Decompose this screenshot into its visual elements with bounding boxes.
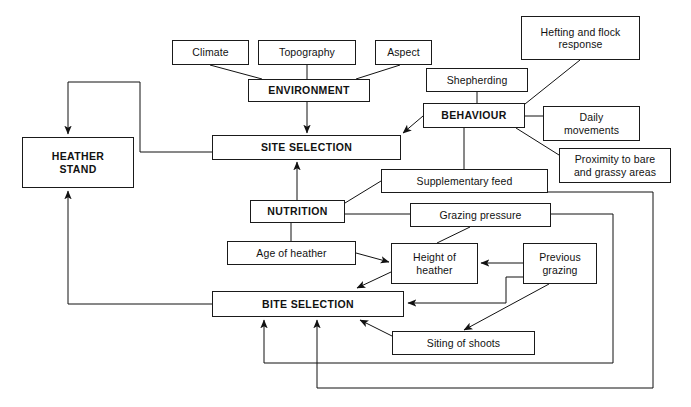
node-age-heather-label: Age of heather [253, 247, 329, 259]
node-age-heather[interactable]: Age of heather [227, 241, 356, 265]
node-topography[interactable]: Topography [258, 40, 356, 65]
node-behaviour-label: BEHAVIOUR [438, 109, 509, 121]
node-shepherding-label: Shepherding [444, 74, 511, 86]
edge-climate-to-environment [210, 65, 262, 79]
edge-hefting-to-behaviour [525, 60, 580, 104]
edge-behaviour-to-site [403, 116, 423, 133]
node-daily[interactable]: Daily movements [543, 106, 640, 141]
edge-siting-to-bite [360, 320, 392, 336]
node-bite[interactable]: BITE SELECTION [212, 291, 404, 317]
node-prev-grazing-label: Previous grazing [536, 251, 584, 276]
node-site[interactable]: SITE SELECTION [212, 135, 401, 160]
edge-grazing-to-height [437, 227, 470, 243]
node-shepherding[interactable]: Shepherding [426, 68, 528, 92]
edge-age-to-height [356, 253, 389, 262]
node-climate-label: Climate [189, 46, 231, 58]
edge-bite-to-heather-stand [68, 191, 212, 304]
node-heather-stand-label: HEATHER STAND [49, 150, 107, 175]
flow-diagram-canvas: ClimateTopographyAspectHefting and flock… [0, 0, 691, 407]
node-hefting-label: Hefting and flock response [538, 26, 624, 51]
edge-nutrition-to-supplementary [345, 181, 381, 203]
node-proximity-label: Proximity to bare and grassy areas [571, 153, 659, 178]
node-supplementary[interactable]: Supplementary feed [381, 169, 548, 193]
node-heather-stand[interactable]: HEATHER STAND [22, 137, 134, 188]
node-supplementary-label: Supplementary feed [414, 175, 516, 187]
node-aspect-label: Aspect [384, 46, 423, 58]
node-siting[interactable]: Siting of shoots [392, 331, 535, 355]
edge-height-to-bite [357, 272, 391, 288]
node-environment-label: ENVIRONMENT [265, 84, 352, 96]
node-height-heather[interactable]: Height of heather [391, 243, 478, 284]
node-hefting[interactable]: Hefting and flock response [521, 16, 640, 60]
node-proximity[interactable]: Proximity to bare and grassy areas [559, 148, 671, 183]
node-environment[interactable]: ENVIRONMENT [248, 79, 370, 102]
node-siting-label: Siting of shoots [424, 337, 503, 349]
node-prev-grazing[interactable]: Previous grazing [523, 243, 597, 284]
node-nutrition-label: NUTRITION [264, 205, 330, 217]
node-grazing-press-label: Grazing pressure [436, 209, 524, 221]
node-topography-label: Topography [276, 46, 338, 58]
node-bite-label: BITE SELECTION [259, 298, 357, 310]
node-behaviour[interactable]: BEHAVIOUR [423, 103, 525, 128]
node-nutrition[interactable]: NUTRITION [250, 200, 345, 223]
node-climate[interactable]: Climate [172, 40, 249, 65]
node-site-label: SITE SELECTION [258, 141, 355, 153]
node-height-heather-label: Height of heather [410, 251, 459, 276]
node-aspect[interactable]: Aspect [375, 40, 432, 65]
node-grazing-press[interactable]: Grazing pressure [410, 203, 551, 227]
node-daily-label: Daily movements [561, 111, 622, 136]
edge-aspect-to-environment [356, 65, 400, 79]
